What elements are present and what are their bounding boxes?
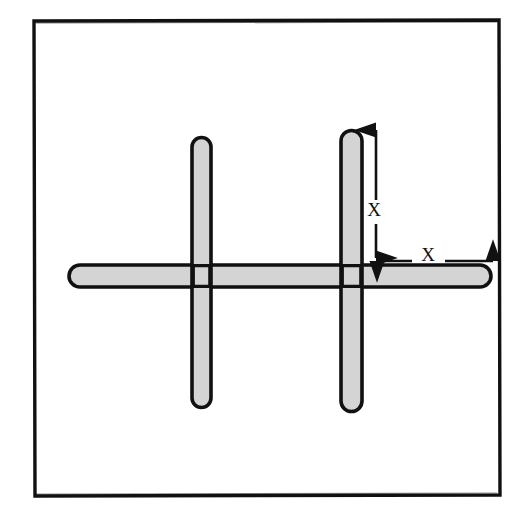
intersection-patch-left bbox=[195, 268, 210, 285]
horizontal-bar bbox=[69, 265, 491, 287]
diagram-figure: X X bbox=[0, 0, 525, 524]
diagram-canvas: X X bbox=[0, 0, 525, 524]
intersection-patch-right bbox=[344, 268, 361, 285]
horizontal-dimension-label: X bbox=[421, 244, 435, 265]
vertical-dimension-label: X bbox=[367, 199, 381, 220]
